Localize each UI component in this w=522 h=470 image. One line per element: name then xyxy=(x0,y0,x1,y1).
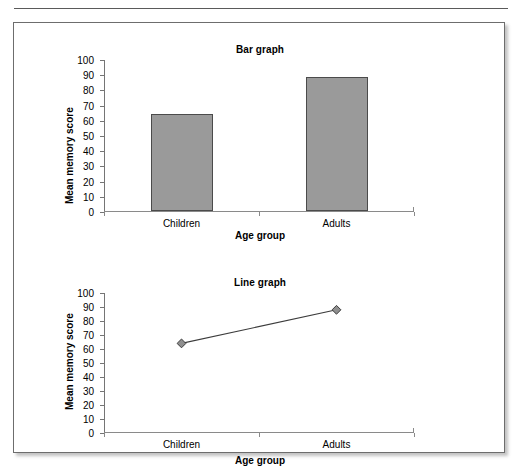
figure-container: Bar graph Mean memory score 010203040506… xyxy=(13,22,505,453)
data-point-marker-children xyxy=(177,339,186,348)
line-graph-y-tick-label: 20 xyxy=(83,400,94,411)
bar-graph-x-tick xyxy=(259,212,260,216)
bar-graph-x-tick xyxy=(414,212,415,216)
bar-graph-panel: Bar graph Mean memory score 010203040506… xyxy=(14,27,506,242)
line-graph-x-category-label: Children xyxy=(163,439,200,450)
bar-graph-x-category-label: Children xyxy=(163,218,200,229)
bar-graph-y-tick xyxy=(100,197,104,198)
bar-graph-y-tick-label: 0 xyxy=(88,207,94,218)
line-graph-plot-area: 0102030405060708090100ChildrenAdults xyxy=(104,293,414,433)
line-graph-y-tick-label: 40 xyxy=(83,372,94,383)
bar-graph-y-tick-label: 60 xyxy=(83,115,94,126)
line-path xyxy=(182,310,337,344)
line-graph-y-tick-label: 50 xyxy=(83,358,94,369)
line-graph-title: Line graph xyxy=(14,277,506,288)
line-graph-x-tick xyxy=(259,433,260,437)
bar-graph-x-tick xyxy=(104,212,105,216)
line-graph-y-tick-label: 80 xyxy=(83,316,94,327)
bar-graph-y-tick-label: 40 xyxy=(83,146,94,157)
bar-graph-plot-area: 0102030405060708090100ChildrenAdults xyxy=(104,60,414,212)
line-graph-x-tick xyxy=(414,433,415,437)
bar-graph-y-tick xyxy=(100,182,104,183)
bar-graph-y-tick xyxy=(100,166,104,167)
bar-graph-y-tick xyxy=(100,136,104,137)
line-graph-x-axis-label: Age group xyxy=(14,455,506,466)
bar-graph-y-tick xyxy=(100,106,104,107)
line-series xyxy=(104,293,414,433)
bar-graph-y-tick-label: 100 xyxy=(77,55,94,66)
bar-graph-y-axis-line xyxy=(104,60,105,212)
bar-graph-x-axis-label: Age group xyxy=(14,230,506,241)
bar-graph-y-tick xyxy=(100,90,104,91)
bar-graph-y-tick-label: 50 xyxy=(83,131,94,142)
bar-graph-y-tick xyxy=(100,60,104,61)
line-graph-y-tick-label: 60 xyxy=(83,344,94,355)
line-graph-y-tick-label: 30 xyxy=(83,386,94,397)
data-point-marker-adults xyxy=(332,305,341,314)
bar-graph-y-tick xyxy=(100,121,104,122)
line-graph-x-category-label: Adults xyxy=(323,439,351,450)
bar-graph-title: Bar graph xyxy=(14,44,506,55)
line-graph-panel: Line graph Mean memory score 01020304050… xyxy=(14,245,506,450)
bar-adults xyxy=(306,77,368,211)
bar-graph-y-tick-label: 10 xyxy=(83,191,94,202)
line-graph-y-tick-label: 10 xyxy=(83,414,94,425)
bar-graph-y-axis-label: Mean memory score xyxy=(64,107,75,204)
line-graph-y-tick-label: 90 xyxy=(83,302,94,313)
line-graph-y-tick-label: 0 xyxy=(88,428,94,439)
bar-graph-y-tick-label: 20 xyxy=(83,176,94,187)
bar-graph-y-tick-label: 70 xyxy=(83,100,94,111)
bar-graph-x-category-label: Adults xyxy=(323,218,351,229)
bar-children xyxy=(151,114,213,211)
line-graph-y-tick-label: 70 xyxy=(83,330,94,341)
bar-graph-y-tick xyxy=(100,75,104,76)
line-graph-y-axis-label: Mean memory score xyxy=(64,313,75,410)
line-graph-x-tick xyxy=(104,433,105,437)
top-divider-rule xyxy=(14,8,508,9)
line-graph-y-tick-label: 100 xyxy=(77,288,94,299)
bar-graph-y-tick xyxy=(100,151,104,152)
bar-graph-y-tick-label: 80 xyxy=(83,85,94,96)
bar-graph-y-tick-label: 90 xyxy=(83,70,94,81)
bar-graph-y-tick-label: 30 xyxy=(83,161,94,172)
